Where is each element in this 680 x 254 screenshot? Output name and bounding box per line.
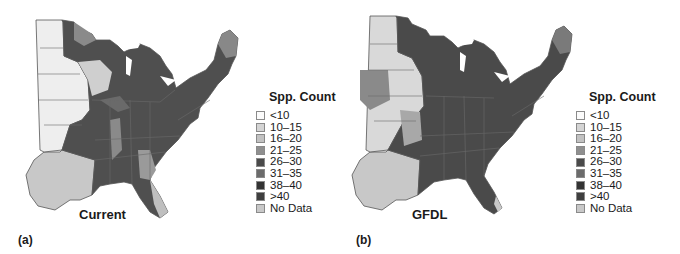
legend-swatch — [576, 192, 585, 201]
legend-item: >40 — [576, 191, 656, 203]
legend-label: >40 — [590, 191, 610, 203]
legend-swatch — [576, 146, 585, 155]
legend-swatch — [256, 204, 265, 213]
legend-swatch — [576, 181, 585, 190]
region-no-data-west — [26, 150, 95, 210]
legend-item: >40 — [256, 191, 336, 203]
legend-label: 31–35 — [270, 168, 302, 180]
legend-label: 31–35 — [590, 168, 622, 180]
legend-item: <10 — [576, 110, 656, 122]
legend-label: <10 — [270, 110, 290, 122]
panel-letter: (a) — [18, 233, 33, 247]
region-no-data-west — [352, 150, 420, 210]
legend-swatch — [256, 192, 265, 201]
panel-current: Current (a) Spp. Count <10 10–15 16–20 2… — [0, 0, 340, 254]
legend-label: <10 — [590, 110, 610, 122]
legend-item: 38–40 — [576, 180, 656, 192]
legend-item: 31–35 — [256, 168, 336, 180]
legend-swatch — [256, 158, 265, 167]
legend-item: <10 — [256, 110, 336, 122]
legend-swatch — [576, 169, 585, 178]
legend-item: 38–40 — [256, 180, 336, 192]
legend-item: No Data — [576, 203, 656, 215]
legend-swatch — [576, 204, 585, 213]
legend-swatch — [256, 169, 265, 178]
legend-title: Spp. Count — [269, 90, 336, 104]
panel-gfdl: GFDL (b) Spp. Count <10 10–15 16–20 21–2… — [340, 0, 680, 254]
legend-swatch — [576, 158, 585, 167]
legend-item: No Data — [256, 203, 336, 215]
legend-label: No Data — [590, 203, 632, 215]
legend-title: Spp. Count — [589, 90, 656, 104]
legend-swatch — [256, 146, 265, 155]
legend-swatch — [256, 123, 265, 132]
legend-swatch — [576, 134, 585, 143]
legend-swatch — [576, 111, 585, 120]
map-title: GFDL — [412, 207, 447, 222]
legend-label: No Data — [270, 203, 312, 215]
legend-item: 31–35 — [576, 168, 656, 180]
legend-swatch — [256, 181, 265, 190]
legend: Spp. Count <10 10–15 16–20 21–25 26–30 3… — [256, 90, 336, 214]
legend-swatch — [576, 123, 585, 132]
legend-swatch — [256, 111, 265, 120]
legend-swatch — [256, 134, 265, 143]
legend: Spp. Count <10 10–15 16–20 21–25 26–30 3… — [576, 90, 656, 214]
map-title: Current — [79, 207, 126, 222]
panel-letter: (b) — [356, 233, 371, 247]
legend-label: >40 — [270, 191, 290, 203]
